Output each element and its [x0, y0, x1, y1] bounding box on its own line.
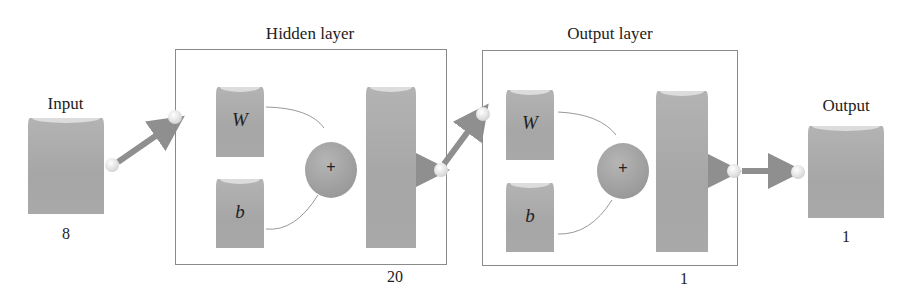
- hidden-input-node-icon: [168, 110, 182, 124]
- output-sum-symbol: +: [597, 159, 649, 177]
- output-layer-output-node-icon: [727, 164, 741, 178]
- output-bias-label: b: [506, 205, 554, 227]
- hidden-sum-symbol: +: [305, 158, 357, 176]
- output-transfer-block: [656, 91, 708, 252]
- output-node-icon: [791, 165, 805, 179]
- input-label: Input: [28, 94, 103, 114]
- output-weight-block: W: [506, 90, 554, 160]
- hidden-layer-size: 20: [375, 268, 415, 286]
- hidden-layer-label: Hidden layer: [175, 24, 445, 44]
- connections: [0, 0, 907, 305]
- output-layer-size: 1: [664, 270, 704, 288]
- hidden-sum-icon: +: [305, 142, 357, 198]
- output-weight-label: W: [506, 112, 554, 134]
- output-size: 1: [808, 228, 884, 246]
- output-layer-label: Output layer: [482, 24, 738, 44]
- hidden-transfer-block: [366, 87, 416, 248]
- input-size: 8: [28, 225, 104, 243]
- hidden-bias-label: b: [216, 201, 264, 223]
- hidden-weight-label: W: [216, 109, 264, 131]
- input-node-icon: [105, 158, 119, 172]
- output-layer-input-node-icon: [476, 107, 490, 121]
- hidden-bias-block: b: [216, 179, 264, 248]
- hidden-output-node-icon: [434, 163, 448, 177]
- output-sum-icon: +: [597, 143, 649, 199]
- input-block: [28, 118, 104, 214]
- hidden-weight-block: W: [216, 87, 264, 157]
- output-label: Output: [808, 96, 884, 116]
- output-block: [808, 126, 884, 218]
- output-bias-block: b: [506, 183, 554, 252]
